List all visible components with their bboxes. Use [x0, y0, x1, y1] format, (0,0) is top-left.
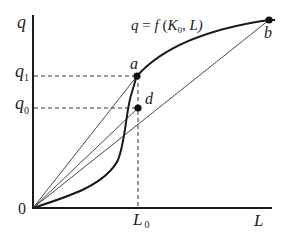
production-function-diagram: a d b q L 0 q1 q0 L0 q = f (K0, L) — [0, 0, 290, 236]
point-b-label: b — [264, 24, 272, 41]
q1-label: q1 — [15, 61, 29, 83]
production-curve — [33, 20, 275, 208]
y-axis-label: q — [17, 12, 26, 32]
x-axis-label: L — [253, 211, 263, 230]
point-b — [265, 16, 272, 23]
L0-label: L0 — [132, 210, 149, 230]
point-a-label: a — [130, 55, 138, 72]
function-label: q = f (K0, L) — [131, 17, 203, 35]
point-d — [134, 104, 141, 111]
origin-label: 0 — [18, 200, 26, 217]
q0-label: q0 — [15, 93, 29, 116]
point-d-label: d — [145, 90, 154, 107]
ray-to-b — [33, 20, 269, 208]
point-a — [133, 72, 140, 79]
ray-to-d — [33, 108, 138, 208]
